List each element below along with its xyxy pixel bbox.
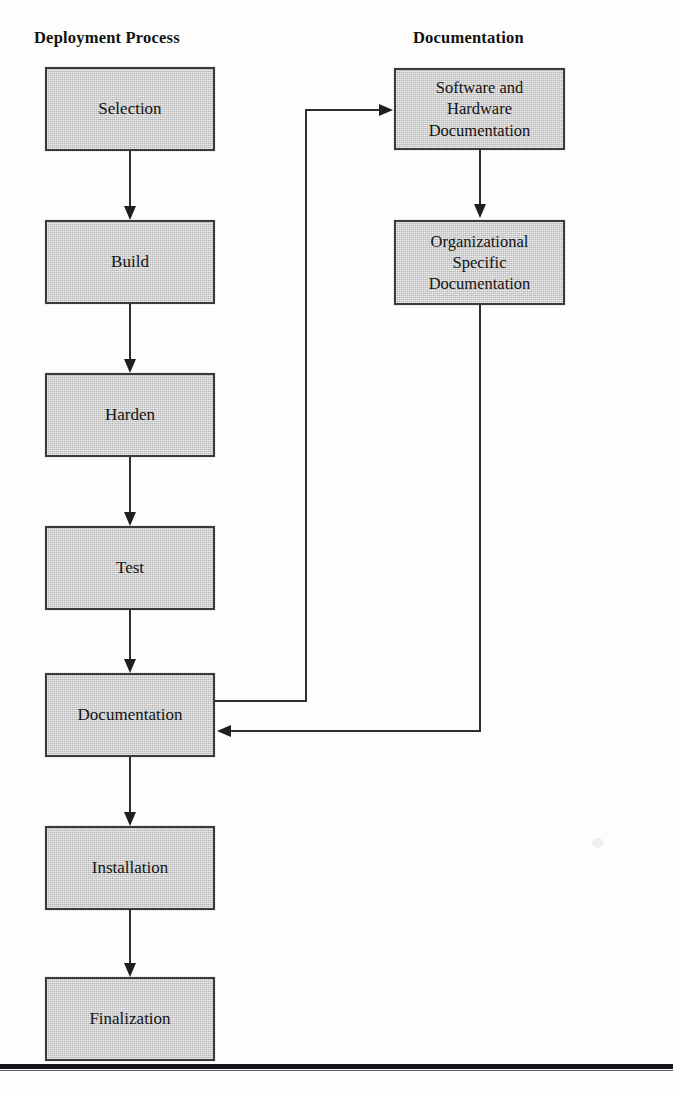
arrowhead-to-documentation-icon — [217, 725, 231, 737]
node-harden-label: Harden — [99, 404, 161, 426]
arrowhead-to-organizational-specific-documentation-icon — [474, 204, 486, 218]
connector-software-hardware-to-organizational — [479, 150, 481, 206]
connector-build-to-harden — [129, 304, 131, 361]
arrowhead-build-to-harden-icon — [124, 359, 136, 373]
scan-artifact — [592, 838, 604, 848]
arrowhead-to-software-hardware-documentation-icon — [379, 104, 393, 116]
connector-documentation-to-software-hardware-segment-v — [305, 109, 307, 702]
node-installation: Installation — [45, 826, 215, 910]
node-documentation-label: Documentation — [72, 704, 189, 726]
column-heading-documentation: Documentation — [413, 30, 524, 47]
node-finalization: Finalization — [45, 977, 215, 1061]
connector-installation-to-finalization — [129, 910, 131, 965]
node-selection: Selection — [45, 67, 215, 151]
column-heading-deployment-process: Deployment Process — [34, 30, 180, 47]
page-footer-rule-secondary — [0, 1070, 673, 1071]
connector-documentation-to-software-hardware-segment-h1 — [215, 700, 307, 702]
connector-organizational-to-documentation-segment-v — [479, 305, 481, 732]
arrowhead-selection-to-build-icon — [124, 206, 136, 220]
page-footer-rule — [0, 1064, 673, 1069]
node-documentation: Documentation — [45, 673, 215, 757]
node-organizational-specific-documentation-label: Organizational Specific Documentation — [423, 231, 537, 294]
node-organizational-specific-documentation: Organizational Specific Documentation — [394, 220, 565, 305]
node-software-hardware-documentation: Software and Hardware Documentation — [394, 68, 565, 150]
flowchart-figure: Deployment Process Documentation Selecti… — [0, 0, 673, 1096]
node-test: Test — [45, 526, 215, 610]
node-build-label: Build — [105, 251, 155, 273]
node-harden: Harden — [45, 373, 215, 457]
connector-selection-to-build — [129, 151, 131, 208]
node-finalization-label: Finalization — [83, 1008, 176, 1030]
node-selection-label: Selection — [92, 98, 167, 120]
connector-documentation-to-installation — [129, 757, 131, 814]
node-installation-label: Installation — [86, 857, 174, 879]
arrowhead-harden-to-test-icon — [124, 512, 136, 526]
connector-documentation-to-software-hardware-segment-h2 — [305, 109, 381, 111]
node-software-hardware-documentation-label: Software and Hardware Documentation — [423, 77, 537, 140]
connector-test-to-documentation — [129, 610, 131, 661]
node-test-label: Test — [110, 557, 150, 579]
arrowhead-documentation-to-installation-icon — [124, 812, 136, 826]
connector-harden-to-test — [129, 457, 131, 514]
node-build: Build — [45, 220, 215, 304]
arrowhead-test-to-documentation-icon — [124, 659, 136, 673]
arrowhead-installation-to-finalization-icon — [124, 963, 136, 977]
connector-organizational-to-documentation-segment-h — [231, 730, 481, 732]
